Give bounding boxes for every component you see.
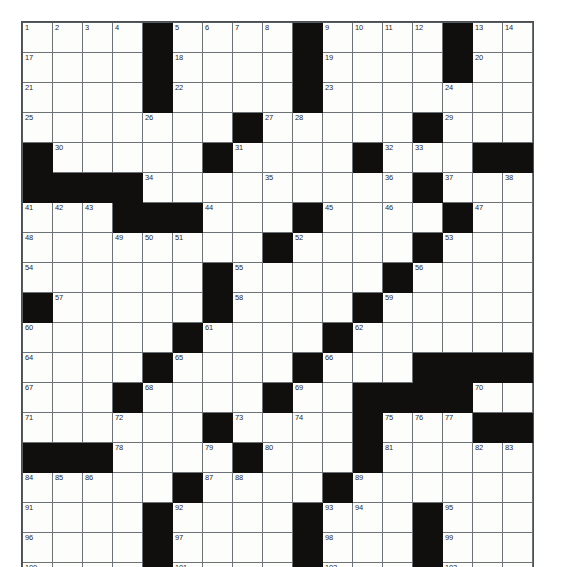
grid-cell[interactable]: 34 [143, 173, 173, 203]
grid-cell[interactable] [293, 473, 323, 503]
grid-cell[interactable] [263, 413, 293, 443]
grid-cell[interactable] [113, 263, 143, 293]
grid-cell[interactable]: 66 [323, 353, 353, 383]
grid-cell[interactable] [263, 533, 293, 563]
grid-cell[interactable] [83, 353, 113, 383]
grid-cell[interactable]: 31 [233, 143, 263, 173]
grid-cell[interactable]: 99 [443, 533, 473, 563]
grid-cell[interactable] [263, 263, 293, 293]
grid-cell[interactable] [413, 53, 443, 83]
grid-cell[interactable] [293, 443, 323, 473]
grid-cell[interactable] [173, 263, 203, 293]
grid-cell[interactable]: 3 [83, 23, 113, 53]
grid-cell[interactable]: 19 [323, 53, 353, 83]
grid-cell[interactable]: 30 [53, 143, 83, 173]
grid-cell[interactable] [443, 443, 473, 473]
grid-cell[interactable] [503, 473, 533, 503]
grid-cell[interactable] [113, 323, 143, 353]
grid-cell[interactable] [413, 473, 443, 503]
grid-cell[interactable] [53, 383, 83, 413]
grid-cell[interactable]: 56 [413, 263, 443, 293]
grid-cell[interactable]: 41 [23, 203, 53, 233]
grid-cell[interactable] [323, 143, 353, 173]
grid-cell[interactable] [503, 203, 533, 233]
grid-cell[interactable] [113, 113, 143, 143]
grid-cell[interactable] [503, 383, 533, 413]
grid-cell[interactable] [503, 233, 533, 263]
grid-cell[interactable] [413, 293, 443, 323]
grid-cell[interactable] [503, 533, 533, 563]
grid-cell[interactable] [503, 503, 533, 533]
grid-cell[interactable] [173, 383, 203, 413]
grid-cell[interactable] [143, 443, 173, 473]
grid-cell[interactable]: 33 [413, 143, 443, 173]
grid-cell[interactable] [233, 53, 263, 83]
grid-cell[interactable]: 43 [83, 203, 113, 233]
grid-cell[interactable] [293, 323, 323, 353]
crossword-grid[interactable]: 1234567891011121314171819202122232425262… [22, 22, 533, 567]
grid-cell[interactable] [443, 293, 473, 323]
grid-cell[interactable]: 91 [23, 503, 53, 533]
grid-cell[interactable] [473, 83, 503, 113]
grid-cell[interactable]: 48 [23, 233, 53, 263]
grid-cell[interactable]: 85 [53, 473, 83, 503]
grid-cell[interactable]: 24 [443, 83, 473, 113]
grid-cell[interactable]: 26 [143, 113, 173, 143]
grid-cell[interactable] [53, 533, 83, 563]
grid-cell[interactable]: 6 [203, 23, 233, 53]
grid-cell[interactable] [53, 563, 83, 567]
grid-cell[interactable] [113, 503, 143, 533]
grid-cell[interactable] [353, 563, 383, 567]
grid-cell[interactable] [503, 323, 533, 353]
grid-cell[interactable]: 92 [173, 503, 203, 533]
grid-cell[interactable]: 75 [383, 413, 413, 443]
grid-cell[interactable]: 77 [443, 413, 473, 443]
grid-cell[interactable] [143, 263, 173, 293]
grid-cell[interactable]: 2 [53, 23, 83, 53]
grid-cell[interactable] [83, 143, 113, 173]
grid-cell[interactable] [263, 323, 293, 353]
grid-cell[interactable] [83, 533, 113, 563]
grid-cell[interactable]: 58 [233, 293, 263, 323]
grid-cell[interactable]: 101 [173, 563, 203, 567]
grid-cell[interactable] [83, 503, 113, 533]
grid-cell[interactable] [473, 173, 503, 203]
grid-cell[interactable] [173, 173, 203, 203]
grid-cell[interactable] [203, 503, 233, 533]
grid-cell[interactable] [383, 533, 413, 563]
grid-cell[interactable]: 42 [53, 203, 83, 233]
grid-cell[interactable] [263, 203, 293, 233]
grid-cell[interactable] [83, 413, 113, 443]
grid-cell[interactable] [143, 323, 173, 353]
grid-cell[interactable] [143, 473, 173, 503]
grid-cell[interactable]: 14 [503, 23, 533, 53]
grid-cell[interactable] [113, 533, 143, 563]
grid-cell[interactable]: 5 [173, 23, 203, 53]
grid-cell[interactable]: 28 [293, 113, 323, 143]
grid-cell[interactable] [413, 83, 443, 113]
grid-cell[interactable]: 37 [443, 173, 473, 203]
grid-cell[interactable] [353, 53, 383, 83]
grid-cell[interactable]: 64 [23, 353, 53, 383]
grid-cell[interactable] [293, 293, 323, 323]
grid-cell[interactable]: 67 [23, 383, 53, 413]
grid-cell[interactable] [473, 533, 503, 563]
grid-cell[interactable]: 53 [443, 233, 473, 263]
grid-cell[interactable]: 8 [263, 23, 293, 53]
grid-cell[interactable]: 20 [473, 53, 503, 83]
grid-cell[interactable] [383, 323, 413, 353]
grid-cell[interactable] [353, 173, 383, 203]
grid-cell[interactable]: 65 [173, 353, 203, 383]
grid-cell[interactable] [383, 473, 413, 503]
grid-cell[interactable]: 76 [413, 413, 443, 443]
grid-cell[interactable]: 36 [383, 173, 413, 203]
grid-cell[interactable] [323, 173, 353, 203]
grid-cell[interactable]: 51 [173, 233, 203, 263]
grid-cell[interactable]: 52 [293, 233, 323, 263]
grid-cell[interactable]: 88 [233, 473, 263, 503]
grid-cell[interactable] [113, 293, 143, 323]
grid-cell[interactable] [233, 563, 263, 567]
grid-cell[interactable] [203, 53, 233, 83]
grid-cell[interactable] [473, 263, 503, 293]
grid-cell[interactable] [443, 473, 473, 503]
